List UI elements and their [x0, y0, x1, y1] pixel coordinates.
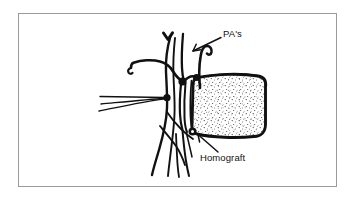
suture-lines	[99, 97, 166, 112]
pa-label-group: PA's	[193, 28, 242, 51]
pa-label: PA's	[223, 28, 242, 39]
knot-left	[163, 94, 170, 101]
homograft-conduit	[190, 70, 270, 142]
knot-upper	[178, 77, 186, 85]
homograft-label: Homograft	[200, 152, 246, 163]
chevron-down-mark	[164, 33, 173, 40]
figure-root: PA's Homograft	[0, 0, 355, 200]
knot-shoulder	[193, 74, 200, 81]
pa-leader-line	[193, 38, 221, 52]
surgical-illustration: PA's Homograft	[0, 0, 355, 200]
